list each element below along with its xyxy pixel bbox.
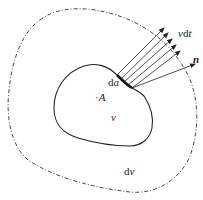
label-point-A: ·A — [95, 92, 105, 103]
label-vdt: vdt — [178, 28, 191, 39]
label-dv: dv — [124, 166, 134, 177]
label-normal-n: n — [193, 54, 199, 65]
label-volume-v: v — [111, 112, 116, 123]
diagram-canvas: d·a ·A v dv vdt n — [0, 0, 203, 200]
label-da: d·a — [108, 77, 119, 88]
normal-vector-arrow — [132, 64, 195, 88]
flux-arrows — [117, 28, 180, 88]
label-A: A — [99, 91, 106, 103]
